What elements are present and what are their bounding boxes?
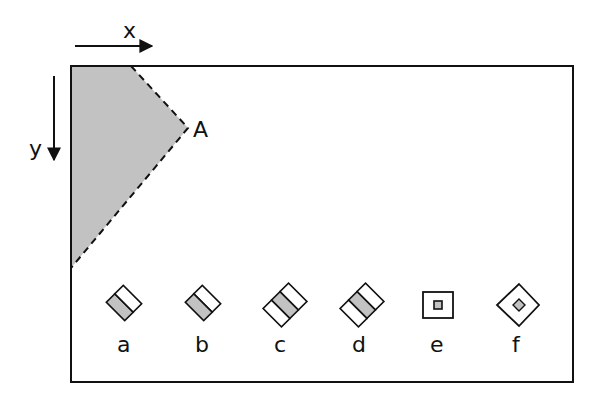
region-a-label: A [193,117,208,142]
shape-a [106,285,141,320]
shape-c [263,283,307,327]
shape-f [497,284,539,326]
shape-d-label: d [352,332,366,357]
shape-e [423,292,453,318]
x-axis-label: x [123,18,136,43]
x-axis-arrow: x [75,18,152,46]
shape-f-label: f [512,332,521,357]
shape-b-label: b [195,332,209,357]
shape-e-label: e [430,332,444,357]
y-axis-label: y [29,136,42,161]
shape-a-label: a [117,332,130,357]
shape-b [185,285,220,320]
shape-c-label: c [274,332,286,357]
y-axis-arrow: y [29,76,54,161]
diagram-canvas: x y A a b c d e [0,0,600,406]
region-a: A [71,66,208,268]
shape-d [340,283,384,327]
